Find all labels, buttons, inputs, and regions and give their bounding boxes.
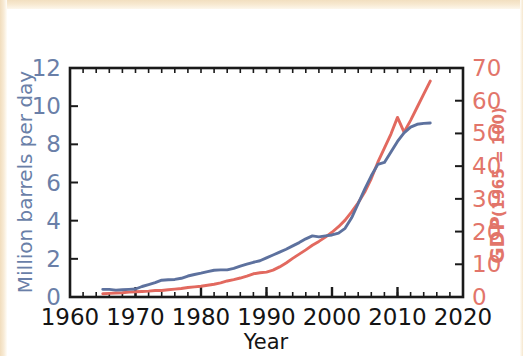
- left-tick-label-3: 6: [46, 170, 61, 196]
- x-axis-title: Year: [243, 330, 289, 354]
- x-tick-label-2: 1980: [172, 304, 231, 330]
- x-tick-label-1: 1970: [106, 304, 165, 330]
- x-tick-label-4: 2000: [303, 304, 362, 330]
- left-tick-label-2: 4: [46, 208, 61, 234]
- x-tick-label-3: 1990: [237, 304, 296, 330]
- left-axis-title: Million barrels per day: [13, 71, 37, 294]
- left-tick-label-1: 2: [46, 246, 61, 272]
- x-tick-label-0: 1960: [41, 304, 100, 330]
- plot-area-background: [70, 68, 463, 297]
- x-tick-label-6: 2020: [434, 304, 493, 330]
- right-tick-label-7: 70: [472, 55, 501, 81]
- figure-page: 024681012 010203040506070 19601970198019…: [0, 0, 523, 356]
- right-axis-title-main: GDP: [485, 216, 509, 264]
- x-axis-tick-labels: 1960197019801990200020102020: [41, 304, 493, 330]
- right-axis-title-paren: (1965 = 100): [490, 107, 508, 217]
- x-tick-label-5: 2010: [368, 304, 427, 330]
- left-tick-label-4: 8: [46, 131, 61, 157]
- line-chart: 024681012 010203040506070 19601970198019…: [0, 0, 523, 356]
